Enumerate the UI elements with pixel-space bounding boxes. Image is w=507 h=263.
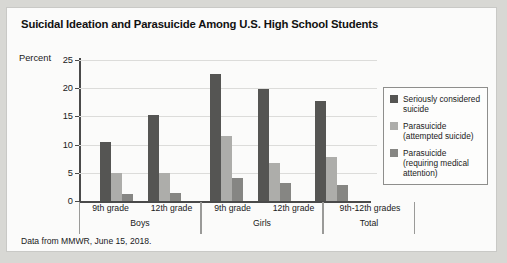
y-axis-tick-label: 25: [55, 55, 73, 65]
chart-legend: Seriously considered suicideParasuicide …: [383, 87, 488, 185]
category-group-label: Boys: [80, 218, 200, 228]
bar: [170, 193, 181, 201]
bar: [111, 173, 122, 201]
legend-swatch-icon: [390, 122, 398, 130]
category-group-label: Total: [324, 218, 414, 228]
y-axis-tick-mark: [75, 173, 79, 174]
bar: [232, 178, 243, 201]
bar: [315, 101, 326, 201]
category-group-label: Girls: [202, 218, 322, 228]
legend-item: Seriously considered suicide: [390, 94, 482, 114]
legend-item: Parasuicide (attempted suicide): [390, 121, 482, 141]
bar: [221, 136, 232, 201]
category-group-total: Total9th-12th grades: [323, 202, 415, 234]
y-axis-tick-label: 15: [55, 111, 73, 121]
y-axis-tick-label: 20: [55, 83, 73, 93]
y-axis-tick-mark: [75, 60, 79, 61]
bar: [122, 194, 133, 201]
bar: [280, 183, 291, 201]
plot-area: [79, 60, 377, 201]
category-group-boys: Boys9th grade12th grade: [79, 202, 201, 234]
bar: [337, 185, 348, 201]
category-tick-label: 9th grade: [80, 203, 141, 213]
legend-label: Parasuicide (requiring medical attention…: [403, 148, 482, 178]
y-axis-tick-label: 5: [55, 168, 73, 178]
bar: [269, 163, 280, 201]
source-note: Data from MMWR, June 15, 2018.: [21, 236, 151, 246]
bar: [159, 173, 170, 201]
chart-card: Suicidal Ideation and Parasuicide Among …: [6, 7, 497, 252]
category-tick-label: 12th grade: [141, 203, 202, 213]
y-axis-tick-mark: [75, 88, 79, 89]
legend-label: Seriously considered suicide: [403, 94, 482, 114]
category-tick-label: 9th grade: [202, 203, 263, 213]
bar: [100, 142, 111, 201]
y-axis-label: Percent: [19, 53, 51, 63]
category-tick-label: 12th grade: [263, 203, 324, 213]
category-axis-band: Boys9th grade12th gradeGirls9th grade12t…: [79, 202, 371, 234]
y-axis-tick-mark: [75, 116, 79, 117]
category-tick-label: 9th-12th grades: [324, 203, 416, 213]
gridline: [79, 116, 377, 117]
legend-swatch-icon: [390, 95, 398, 103]
bar: [326, 157, 337, 201]
y-axis-tick-mark: [75, 145, 79, 146]
y-axis-tick-label: 0: [55, 196, 73, 206]
chart-title: Suicidal Ideation and Parasuicide Among …: [21, 18, 378, 30]
gridline: [79, 88, 377, 89]
category-group-girls: Girls9th grade12th grade: [201, 202, 323, 234]
bar: [258, 89, 269, 201]
bar: [148, 115, 159, 201]
legend-item: Parasuicide (requiring medical attention…: [390, 148, 482, 178]
y-axis-tick-label: 10: [55, 140, 73, 150]
legend-label: Parasuicide (attempted suicide): [403, 121, 482, 141]
legend-swatch-icon: [390, 149, 398, 157]
gridline: [79, 60, 377, 61]
bar: [210, 74, 221, 201]
